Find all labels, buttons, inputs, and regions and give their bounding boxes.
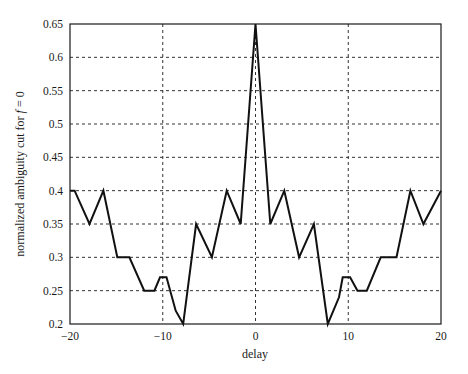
y-tick-label: 0.2 — [49, 318, 64, 330]
y-axis-label: normalized ambiguity cut for f = 0 — [13, 91, 27, 256]
x-tick-label: −20 — [61, 330, 79, 342]
y-axis-ticks: 0.20.250.30.350.40.450.50.550.60.65 — [43, 18, 63, 330]
y-tick-label: 0.55 — [43, 85, 63, 97]
x-axis-ticks: −20−1001020 — [61, 330, 447, 342]
y-tick-label: 0.25 — [43, 285, 63, 297]
x-tick-label: 0 — [253, 330, 259, 342]
y-tick-label: 0.65 — [43, 18, 63, 30]
y-tick-label: 0.6 — [49, 51, 64, 63]
line-chart: −20−1001020 0.20.250.30.350.40.450.50.55… — [0, 0, 468, 374]
y-axis-label-suffix: = 0 — [13, 91, 27, 110]
y-tick-label: 0.35 — [43, 218, 63, 230]
x-tick-label: −10 — [154, 330, 172, 342]
y-tick-label: 0.5 — [49, 118, 64, 130]
y-tick-label: 0.45 — [43, 151, 63, 163]
y-tick-label: 0.3 — [49, 251, 64, 263]
y-axis-label-prefix: normalized ambiguity cut for — [13, 113, 27, 256]
x-tick-label: 20 — [435, 330, 447, 342]
x-tick-label: 10 — [343, 330, 355, 342]
grid-lines — [70, 24, 441, 324]
x-axis-label: delay — [242, 347, 268, 361]
y-tick-label: 0.4 — [49, 185, 64, 197]
